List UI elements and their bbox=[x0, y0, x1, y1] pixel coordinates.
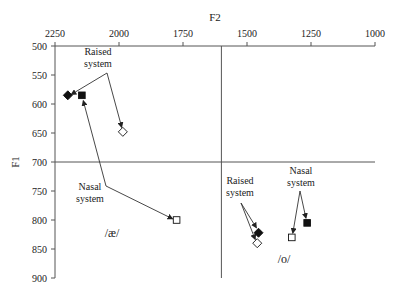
x-ticks: 225020001750150012501000 bbox=[45, 28, 385, 46]
annotation-arrow bbox=[107, 73, 122, 127]
x-tick-label: 2000 bbox=[109, 28, 129, 39]
y-ticks: 500550600650700750800850900 bbox=[32, 41, 55, 284]
x-tick-label: 1000 bbox=[365, 28, 385, 39]
annotation-text: system bbox=[76, 193, 104, 204]
annotation-arrow bbox=[300, 191, 306, 218]
x-axis-title: F2 bbox=[209, 11, 221, 23]
annotation-text: system bbox=[287, 177, 315, 188]
annotation-text: Raised bbox=[84, 46, 111, 57]
open-diamond-marker bbox=[118, 127, 127, 136]
y-tick-label: 750 bbox=[32, 186, 47, 197]
y-tick-label: 900 bbox=[32, 273, 47, 284]
open-square-marker bbox=[173, 217, 180, 224]
x-tick-label: 2250 bbox=[45, 28, 65, 39]
open-square-marker bbox=[289, 234, 296, 241]
y-tick-label: 600 bbox=[32, 99, 47, 110]
y-tick-label: 700 bbox=[32, 157, 47, 168]
annotation-arrow bbox=[83, 101, 106, 186]
reference-lines bbox=[55, 46, 375, 278]
y-axis-title: F1 bbox=[9, 156, 21, 168]
annotation-text: system bbox=[226, 187, 254, 198]
formant-chart: 225020001750150012501000 F2 500550600650… bbox=[0, 0, 397, 299]
annotations: RaisedsystemNasalsystemRaisedsystemNasal… bbox=[71, 46, 315, 239]
filled-square-marker bbox=[304, 220, 311, 227]
vowel-label: /æ/ bbox=[105, 226, 120, 240]
vowel-labels: /æ//o/ bbox=[105, 226, 291, 266]
data-points bbox=[63, 91, 310, 248]
annotation-arrow bbox=[241, 203, 256, 228]
annotation: Nasalsystem bbox=[76, 101, 172, 219]
y-tick-label: 850 bbox=[32, 244, 47, 255]
open-diamond-marker bbox=[253, 239, 262, 248]
annotation-arrow bbox=[106, 186, 173, 219]
y-tick-label: 650 bbox=[32, 128, 47, 139]
filled-diamond-marker bbox=[63, 91, 72, 100]
annotation: Raisedsystem bbox=[226, 175, 256, 239]
annotation-arrow bbox=[293, 191, 300, 233]
annotation: Raisedsystem bbox=[71, 46, 121, 127]
y-axis: 500550600650700750800850900 F1 bbox=[9, 41, 55, 284]
annotation-text: Raised bbox=[226, 175, 253, 186]
y-tick-label: 550 bbox=[32, 70, 47, 81]
x-axis: 225020001750150012501000 F2 bbox=[45, 11, 385, 46]
annotation-arrow bbox=[71, 73, 107, 94]
y-tick-label: 800 bbox=[32, 215, 47, 226]
annotation-arrow bbox=[241, 203, 255, 239]
y-tick-label: 500 bbox=[32, 41, 47, 52]
filled-diamond-marker bbox=[254, 228, 263, 237]
annotation-text: Nasal bbox=[79, 181, 102, 192]
x-tick-label: 1500 bbox=[237, 28, 257, 39]
x-tick-label: 1750 bbox=[173, 28, 193, 39]
vowel-label: /o/ bbox=[278, 252, 291, 266]
annotation-text: system bbox=[84, 58, 112, 69]
x-tick-label: 1250 bbox=[301, 28, 321, 39]
filled-square-marker bbox=[79, 92, 86, 99]
annotation-text: Nasal bbox=[290, 165, 313, 176]
